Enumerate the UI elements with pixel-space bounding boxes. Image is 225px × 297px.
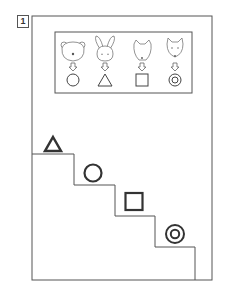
puzzle-figure: [0, 0, 225, 297]
arrow-down-icon: [171, 63, 179, 71]
key-square-shape: [136, 74, 148, 86]
bear-icon: [61, 42, 85, 61]
staircase: [32, 154, 195, 280]
step-3-square-shape: [126, 193, 143, 210]
cat-icon: [167, 38, 183, 57]
key-circle-shape: [67, 74, 79, 86]
step-4-double-circle-shape: [166, 225, 184, 243]
key-triangle-shape: [98, 74, 112, 86]
arrow-down-icon: [69, 63, 77, 71]
key-double-circle-shape: [169, 74, 181, 86]
arrow-down-icon: [101, 63, 109, 71]
step-1-triangle-shape: [45, 137, 61, 151]
dog-icon: [134, 40, 151, 60]
rabbit-icon: [96, 36, 115, 61]
step-2-circle-shape: [85, 165, 102, 182]
arrow-down-icon: [138, 63, 146, 71]
